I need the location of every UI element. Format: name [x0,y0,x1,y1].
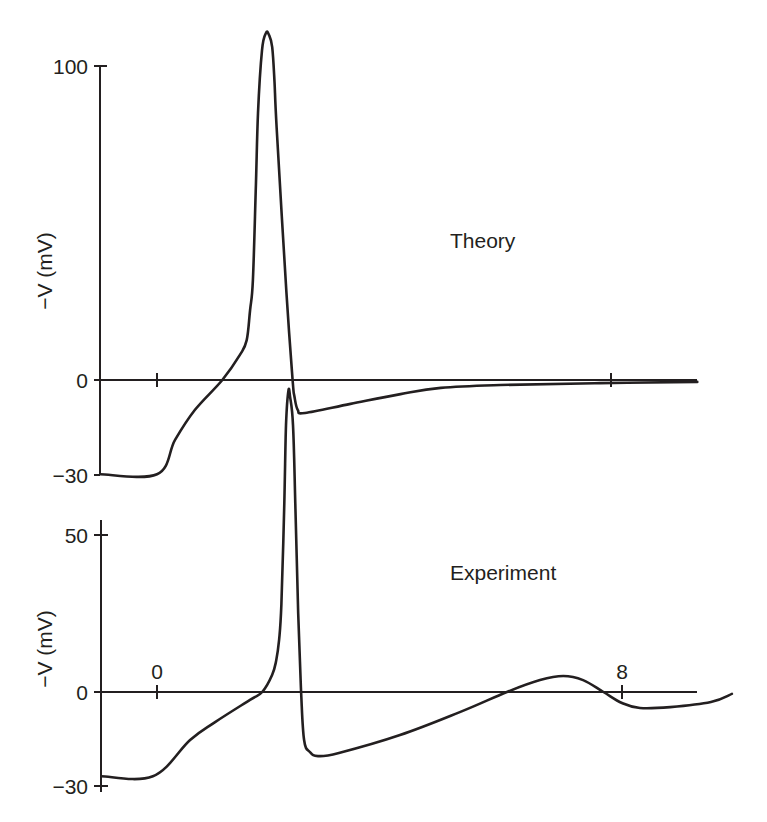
experiment-y-tick-label-neg30: −30 [52,775,88,798]
experiment-y-tick-label-0: 0 [76,681,88,704]
theory-y-tick-label-100: 100 [53,55,88,78]
experiment-x-tick-label-8: 8 [616,660,628,683]
experiment-trace-line [101,389,732,779]
experiment-panel: 50 0 −30 −V (mV) 0 8 Experiment [33,389,732,798]
theory-y-tick-label-0: 0 [76,369,88,392]
experiment-y-tick-label-50: 50 [65,524,88,547]
experiment-x-tick-label-0: 0 [151,660,163,683]
theory-y-tick-label-neg30: −30 [52,464,88,487]
experiment-label: Experiment [450,561,556,584]
theory-panel: 100 0 −30 −V (mV) Theory [33,32,697,487]
experiment-y-axis-title: −V (mV) [33,610,56,688]
theory-y-axis-title: −V (mV) [33,232,56,310]
theory-label: Theory [450,229,516,252]
figure-canvas: 100 0 −30 −V (mV) Theory 50 0 −30 −V (mV… [0,0,767,822]
theory-trace-line [100,32,697,477]
